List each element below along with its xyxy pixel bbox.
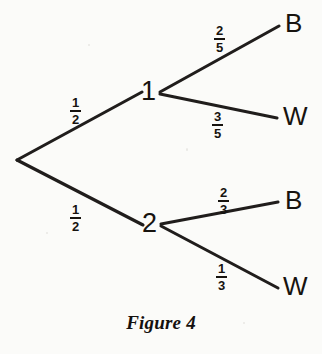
leaf-label-b-bottom: B <box>285 187 302 213</box>
fraction-denominator: 2 <box>71 219 80 233</box>
leaf-label-b-top: B <box>285 10 302 36</box>
probability-label-node2-to-w: 1 3 <box>216 262 227 292</box>
scan-speckle <box>46 232 48 234</box>
fraction-denominator: 5 <box>215 40 224 54</box>
probability-label-node1-to-w: 3 5 <box>212 110 223 140</box>
fraction-denominator: 5 <box>213 126 222 140</box>
fraction-numerator: 1 <box>71 96 80 110</box>
fraction-numerator: 1 <box>71 203 80 217</box>
probability-tree-svg <box>0 0 322 354</box>
fraction-numerator: 3 <box>213 110 222 124</box>
fraction-denominator: 3 <box>217 278 226 292</box>
scan-speckle <box>186 148 188 151</box>
fraction-numerator: 2 <box>219 186 228 200</box>
probability-label-node1-to-b: 2 5 <box>214 24 225 54</box>
probability-label-root-to-node1: 1 2 <box>70 96 81 126</box>
fraction-numerator: 2 <box>215 24 224 38</box>
fraction-denominator: 3 <box>219 202 228 216</box>
probability-label-root-to-node2: 1 2 <box>70 203 81 233</box>
figure-caption: Figure 4 <box>0 312 322 334</box>
node-label-1: 1 <box>141 78 156 105</box>
leaf-label-w-top: W <box>283 103 308 129</box>
leaf-label-w-bottom: W <box>283 273 308 299</box>
fraction-denominator: 2 <box>71 112 80 126</box>
scan-speckle <box>88 44 90 46</box>
fraction-numerator: 1 <box>217 262 226 276</box>
node-label-2: 2 <box>142 210 157 237</box>
probability-label-node2-to-b: 2 3 <box>218 186 229 216</box>
figure-container: 1 2 B W B W 1 2 1 2 2 5 3 5 2 3 1 3 Figu… <box>0 0 322 354</box>
